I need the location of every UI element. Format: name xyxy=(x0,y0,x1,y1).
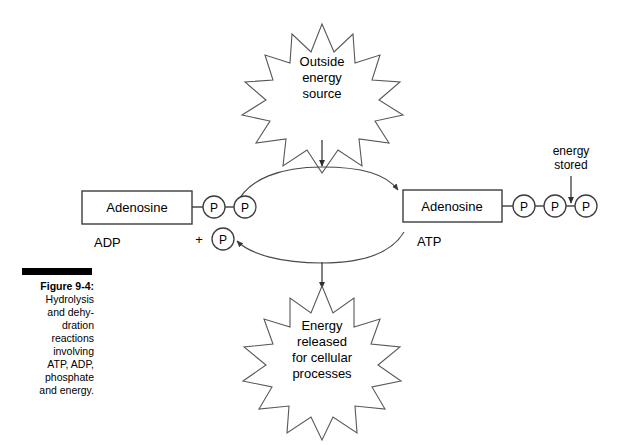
adp-molecule: Adenosine P P + P ADP xyxy=(82,191,256,250)
adenosine-label-left: Adenosine xyxy=(106,200,167,215)
energy-released-burst: Energy released for cellular processes xyxy=(243,286,401,440)
top-burst-line-0: Outside xyxy=(300,54,345,69)
plus-sign-left: + xyxy=(195,232,203,247)
figure-container: Outside energy source Adenosine P P + xyxy=(0,0,625,445)
bottom-burst-line-2: for cellular xyxy=(292,350,353,365)
phosphate-label-left-2: P xyxy=(241,201,249,215)
energy-stored-line-1: stored xyxy=(554,158,587,172)
atp-molecule: Adenosine P P P ATP xyxy=(403,190,597,249)
caption-title: Figure 9-4: xyxy=(14,280,94,293)
bottom-burst-line-0: Energy xyxy=(301,318,343,333)
adp-name-label: ADP xyxy=(94,235,121,250)
atp-to-adp-arrow xyxy=(237,232,404,263)
adp-to-atp-arrow xyxy=(236,167,398,205)
adenosine-label-right: Adenosine xyxy=(421,199,482,214)
bottom-burst-line-1: released xyxy=(297,334,347,349)
phosphate-label-right-3: P xyxy=(582,200,590,214)
phosphate-label-right-2: P xyxy=(551,200,559,214)
atp-name-label: ATP xyxy=(417,234,441,249)
energy-stored-annotation: energy stored xyxy=(553,144,590,203)
phosphate-label-right-1: P xyxy=(520,200,528,214)
bottom-burst-line-3: processes xyxy=(292,366,352,381)
energy-stored-line-0: energy xyxy=(553,144,590,158)
top-burst-line-1: energy xyxy=(302,70,342,85)
free-phosphate-label: P xyxy=(219,233,227,247)
top-burst-line-2: source xyxy=(302,86,341,101)
caption-rule xyxy=(22,268,92,275)
figure-caption: Figure 9-4: Hydrolysis and dehy- dration… xyxy=(14,268,94,397)
phosphate-label-left-1: P xyxy=(210,201,218,215)
caption-body: Hydrolysis and dehy- dration reactions i… xyxy=(14,293,94,397)
